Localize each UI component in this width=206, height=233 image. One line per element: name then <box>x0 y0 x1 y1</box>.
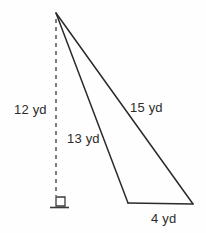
label-base-4: 4 yd <box>151 211 176 226</box>
side-13-line <box>56 13 128 203</box>
label-side-13: 13 yd <box>67 131 100 146</box>
base-4-line <box>128 203 193 204</box>
right-angle-marker-icon <box>56 197 65 206</box>
label-side-15: 15 yd <box>130 100 163 115</box>
geometry-diagram: 12 yd 13 yd 15 yd 4 yd <box>0 0 206 233</box>
label-altitude: 12 yd <box>14 102 47 117</box>
side-15-line <box>56 13 193 204</box>
